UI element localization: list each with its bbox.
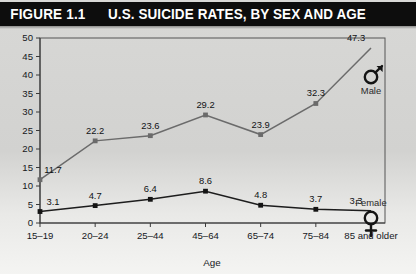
- y-tick-label: 30: [22, 106, 33, 117]
- male-symbol-icon: [365, 66, 383, 83]
- series-label-male: Male: [361, 85, 381, 96]
- figure-container: FIGURE 1.1 U.S. SUICIDE RATES, BY SEX AN…: [0, 0, 416, 274]
- data-point-marker: [313, 101, 318, 106]
- data-point-label: 23.6: [141, 120, 159, 131]
- data-point-marker: [203, 113, 208, 118]
- series-markers-male: [38, 101, 319, 182]
- data-point-label: 29.2: [196, 99, 214, 110]
- y-axis-ticks: [36, 38, 40, 223]
- x-category-label: 45–64: [192, 230, 219, 241]
- data-point-marker: [38, 209, 43, 214]
- y-tick-label: 25: [22, 125, 33, 136]
- data-point-label: 11.7: [44, 164, 62, 175]
- data-point-label: 3.7: [309, 193, 322, 204]
- figure-title-bar: FIGURE 1.1 U.S. SUICIDE RATES, BY SEX AN…: [0, 2, 416, 26]
- data-point-marker: [148, 133, 153, 138]
- data-point-marker: [313, 207, 318, 212]
- data-point-marker: [258, 132, 263, 137]
- data-point-marker: [148, 197, 153, 202]
- y-tick-label: 50: [22, 32, 33, 43]
- data-point-marker: [258, 203, 263, 208]
- series-label-female: Female: [355, 197, 386, 208]
- y-tick-label: 40: [22, 69, 33, 80]
- y-tick-label: 20: [22, 143, 33, 154]
- x-category-label: 65–74: [247, 230, 274, 241]
- y-tick-label: 15: [22, 162, 33, 173]
- x-axis-title: Age: [203, 257, 221, 268]
- data-point-label: 8.6: [199, 175, 212, 186]
- data-point-marker: [93, 138, 98, 143]
- y-tick-label: 10: [22, 180, 33, 191]
- x-axis-ticks: [40, 223, 371, 227]
- y-tick-label: 0: [28, 217, 33, 228]
- x-category-label: 25–44: [137, 230, 164, 241]
- data-point-label: 4.8: [254, 189, 267, 200]
- series-markers-female: [38, 189, 319, 214]
- x-category-label: 15–19: [27, 230, 54, 241]
- y-tick-label: 5: [28, 199, 33, 210]
- data-point-marker: [93, 203, 98, 208]
- figure-number: FIGURE 1.1: [0, 6, 86, 22]
- data-point-marker: [38, 177, 43, 182]
- figure-title: U.S. SUICIDE RATES, BY SEX AND AGE: [108, 6, 366, 22]
- y-axis-tick-labels: 05101520253035404550: [22, 32, 33, 228]
- line-chart-svg: 05101520253035404550 15–1920–2425–4445–6…: [0, 28, 416, 274]
- data-point-label: 4.7: [89, 190, 102, 201]
- y-tick-label: 35: [22, 88, 33, 99]
- data-point-label: 23.9: [252, 119, 270, 130]
- x-category-label: 75–84: [302, 230, 329, 241]
- data-point-label: 3.1: [46, 196, 59, 207]
- data-point-marker: [203, 189, 208, 194]
- data-point-label: 6.4: [144, 183, 157, 194]
- data-point-label: 32.3: [307, 87, 325, 98]
- x-axis-category-labels: 15–1920–2425–4445–6465–7475–8485 and old…: [27, 230, 399, 241]
- data-point-label: 47.3: [347, 32, 365, 43]
- chart-plot: 05101520253035404550 15–1920–2425–4445–6…: [0, 28, 416, 274]
- data-point-label: 22.2: [86, 125, 104, 136]
- y-tick-label: 45: [22, 51, 33, 62]
- x-category-label: 20–24: [82, 230, 109, 241]
